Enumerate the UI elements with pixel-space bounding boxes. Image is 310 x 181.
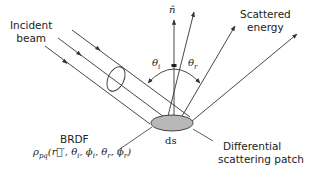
brdf-formula: ρpq(r⃗′, θi, ϕi, θr, ϕr) [33, 146, 131, 160]
patch-leader [193, 129, 213, 141]
scattering-patch [151, 115, 193, 131]
incident-line2: beam [10, 32, 52, 45]
normal-label: n̂ [169, 4, 175, 15]
scattered-energy-label: Scattered energy [240, 8, 291, 34]
incident-beam [45, 30, 190, 124]
patch-label: Differential scattering patch [218, 140, 304, 166]
ds-label: ds [165, 135, 177, 146]
theta-i-label: θi [152, 57, 160, 71]
scattered-line2: energy [240, 21, 291, 34]
incident-beam-label: Incident beam [10, 19, 52, 45]
incident-line1: Incident [10, 19, 52, 32]
theta-r-label: θr [188, 57, 197, 71]
patch-line2: scattering patch [218, 153, 304, 166]
scattered-line1: Scattered [240, 8, 291, 21]
patch-line1: Differential [218, 140, 304, 153]
brdf-title: BRDF [60, 133, 89, 146]
beam-cross-section [103, 64, 128, 94]
